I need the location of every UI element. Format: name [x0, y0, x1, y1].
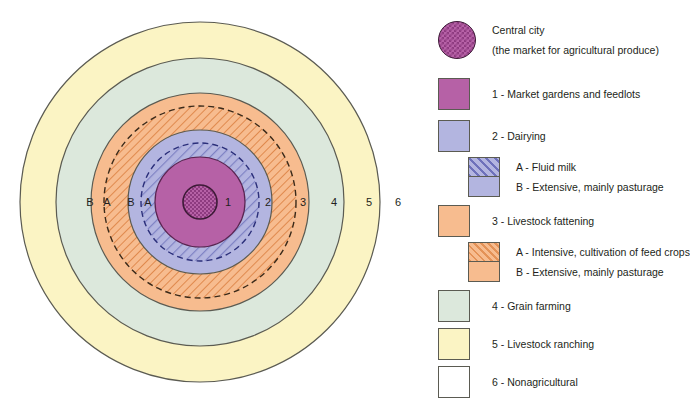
legend-item-zone-2-sub[interactable]: A - Fluid milk B - Extensive, mainly pas… [468, 157, 664, 197]
zone-3-sub-swatch-icon [468, 242, 500, 282]
central-city-swatch-icon [438, 21, 476, 59]
legend-text-zone-3-sub: A - Intensive, cultivation of feed crops… [516, 242, 690, 282]
legend-line: A - Intensive, cultivation of feed crops [516, 242, 690, 262]
ring-label-5: 5 [366, 196, 372, 208]
legend-line: 6 - Nonagricultural [492, 375, 578, 389]
legend-line: A - Fluid milk [516, 157, 664, 177]
legend-line: 5 - Livestock ranching [492, 337, 594, 351]
ring-label-2b: B [127, 196, 134, 208]
legend-item-zone-3-sub[interactable]: A - Intensive, cultivation of feed crops… [468, 242, 690, 282]
zone-3-swatch-icon [438, 205, 470, 237]
legend-line: 4 - Grain farming [492, 299, 571, 313]
zone-3a-swatch-icon [469, 243, 499, 262]
ring-label-6: 6 [395, 196, 401, 208]
ring-label-3: 3 [300, 196, 306, 208]
von-thunen-diagram: 1 2 3 4 5 6 B A B A [0, 0, 420, 407]
zone-1-swatch-icon [438, 78, 470, 110]
ring-label-4: 4 [331, 196, 337, 208]
ring-label-3a: A [103, 196, 111, 208]
legend-item-zone-1[interactable]: 1 - Market gardens and feedlots [438, 78, 640, 110]
legend-item-zone-5[interactable]: 5 - Livestock ranching [438, 328, 594, 360]
legend-line: (the market for agricultural produce) [492, 40, 659, 60]
legend-line: 3 - Livestock fattening [492, 214, 594, 228]
zone-5-swatch-icon [438, 328, 470, 360]
ring-label-2: 2 [265, 196, 271, 208]
zone-2b-swatch-icon [469, 177, 499, 196]
zone-2-sub-swatch-icon [468, 157, 500, 197]
central-city [183, 185, 217, 219]
legend-text-zone-2-sub: A - Fluid milk B - Extensive, mainly pas… [516, 157, 664, 197]
ring-label-1: 1 [225, 196, 231, 208]
legend-item-zone-2[interactable]: 2 - Dairying [438, 120, 546, 152]
legend-line: 1 - Market gardens and feedlots [492, 87, 640, 101]
legend: Central city (the market for agricultura… [432, 0, 689, 407]
legend-line: 2 - Dairying [492, 129, 546, 143]
legend-line: B - Extensive, mainly pasturage [516, 177, 664, 197]
zone-6-swatch-icon [438, 366, 470, 398]
legend-item-central-city[interactable]: Central city (the market for agricultura… [438, 20, 659, 60]
legend-line: Central city [492, 20, 659, 40]
ring-label-3b: B [86, 196, 93, 208]
zone-2-swatch-icon [438, 120, 470, 152]
legend-item-zone-6[interactable]: 6 - Nonagricultural [438, 366, 578, 398]
zone-4-swatch-icon [438, 290, 470, 322]
ring-label-2a: A [144, 196, 152, 208]
legend-item-zone-3[interactable]: 3 - Livestock fattening [438, 205, 594, 237]
legend-line: B - Extensive, mainly pasturage [516, 262, 690, 282]
zone-2a-swatch-icon [469, 158, 499, 177]
legend-text-central-city: Central city (the market for agricultura… [492, 20, 659, 60]
legend-item-zone-4[interactable]: 4 - Grain farming [438, 290, 571, 322]
zone-3b-swatch-icon [469, 262, 499, 281]
